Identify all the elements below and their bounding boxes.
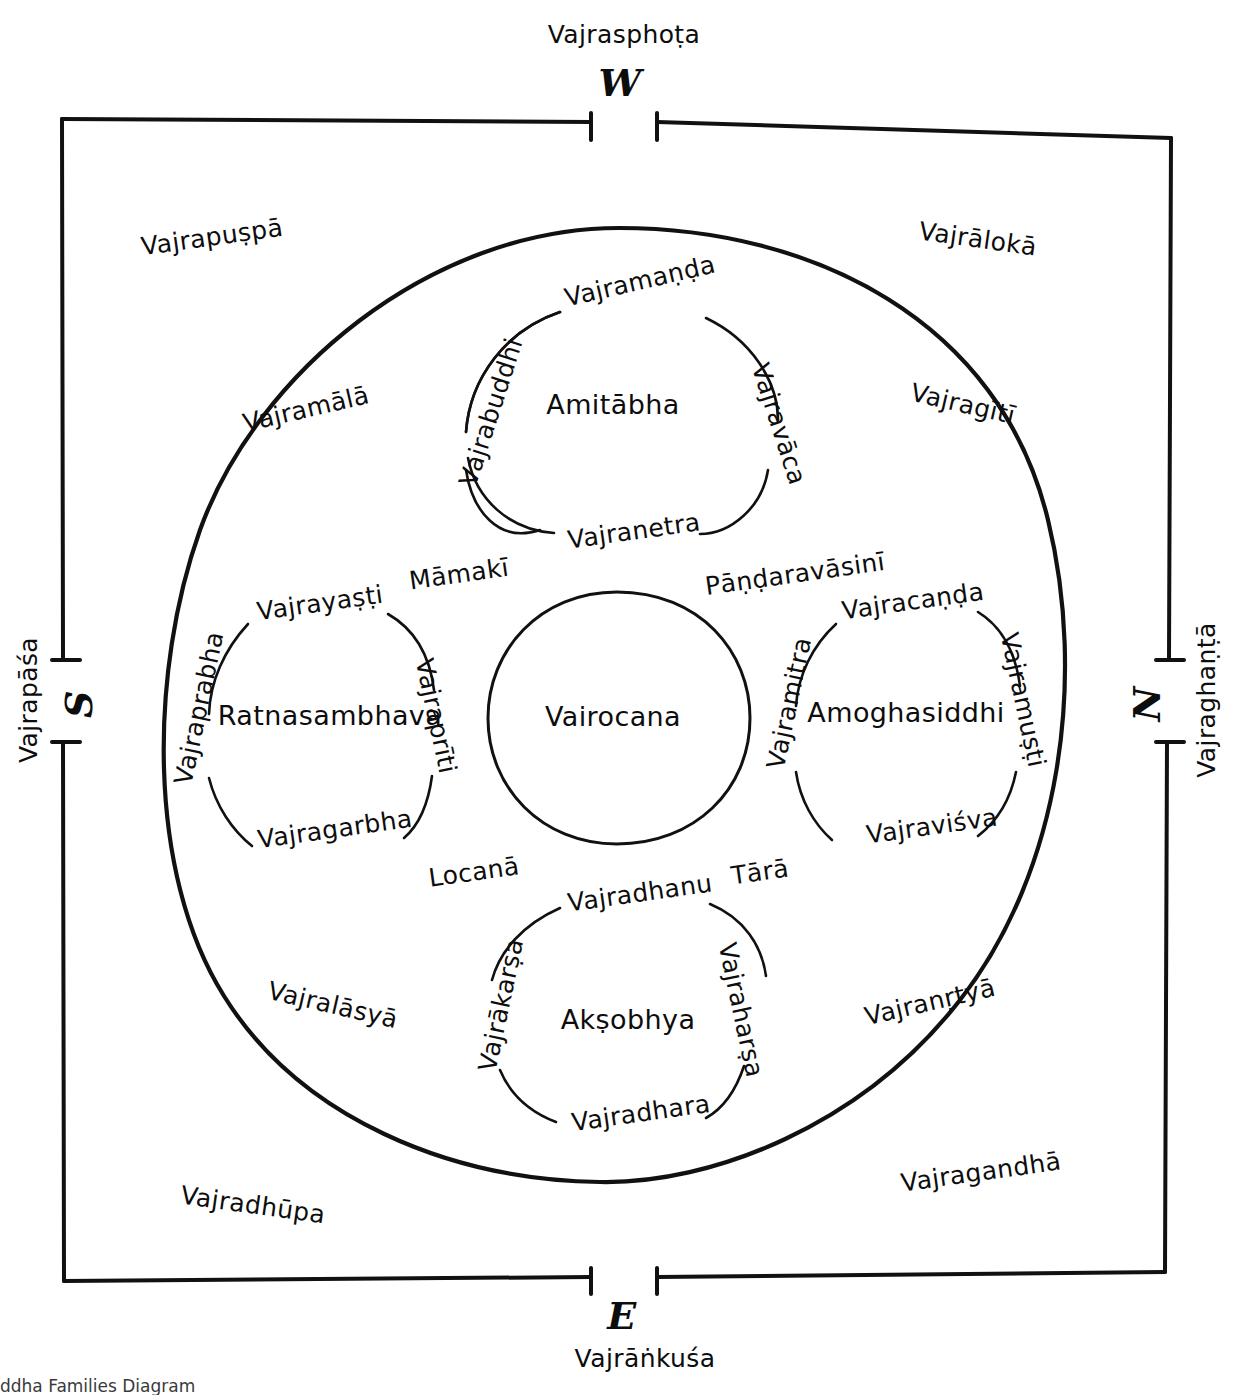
amitabha-arc-lower-right [700, 470, 768, 534]
direction-label-east: E [607, 1293, 636, 1338]
frame-bottom-right-segment [657, 1272, 1165, 1277]
buddha-label-aksobhya: Akṣobhya [561, 1006, 696, 1033]
buddha-label-amitabha: Amitābha [546, 391, 679, 418]
direction-label-west: W [598, 60, 641, 105]
figure-caption: ddha Families Diagram [0, 1376, 195, 1395]
aksobhya-arc-lower-left [500, 1070, 556, 1122]
buddha-label-vairocana: Vairocana [545, 703, 681, 730]
gate-label-right: Vajraghaṇṭā [1194, 622, 1219, 777]
frame-bottom-left-segment [64, 1277, 591, 1281]
frame-left-upper-segment [62, 119, 63, 660]
buddha-label-amoghasiddhi: Amoghasiddhi [807, 699, 1004, 726]
direction-label-north: N [1124, 686, 1169, 721]
frame-top-right-segment [657, 122, 1171, 138]
ratnasambhava-arc-lower-left [209, 778, 252, 846]
buddha-label-ratnasambhava: Ratnasambhava [218, 702, 442, 729]
frame-right-upper-segment [1169, 138, 1171, 660]
frame-top-left-segment [62, 119, 591, 122]
gate-label-left: Vajrapāśa [16, 637, 41, 763]
direction-label-south: S [56, 690, 101, 718]
gate-label-bottom: Vajrāṅkuśa [575, 1346, 716, 1371]
amoghasiddhi-arc-lower-left [796, 772, 832, 840]
gate-label-top: Vajrasphoṭa [548, 22, 701, 47]
consort-label-tara: Tārā [730, 856, 791, 889]
diagram-canvas: Vajrasphoṭa W E Vajrāṅkuśa Vajrapāśa S V… [0, 0, 1234, 1395]
frame-left-lower-segment [63, 742, 64, 1281]
aksobhya-arc-lower-right [706, 1066, 744, 1118]
frame-right-lower-segment [1165, 742, 1167, 1272]
